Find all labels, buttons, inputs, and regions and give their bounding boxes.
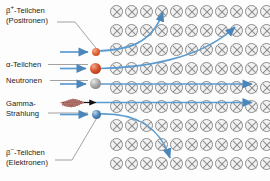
trajectory-electron xyxy=(99,114,170,158)
electron-marker xyxy=(92,110,101,119)
deflected-trajectories xyxy=(96,12,252,158)
radiation-deflection-diagram: β+-Teilchen (Positronen) α-Teilchen Neut… xyxy=(0,0,270,181)
label-positron-line2: (Positronen) xyxy=(6,16,48,26)
label-electron-line1: β−-Teilchen xyxy=(6,148,48,158)
label-positron-line1: β+-Teilchen xyxy=(6,6,48,16)
label-gamma-line2: Strahlung xyxy=(6,109,39,119)
label-positron-suffix: -Teilchen xyxy=(14,6,45,15)
label-alpha-line1: α-Teilchen xyxy=(6,60,41,70)
label-positron: β+-Teilchen (Positronen) xyxy=(6,6,48,26)
label-alpha: α-Teilchen xyxy=(6,60,41,70)
label-electron: β−-Teilchen (Elektronen) xyxy=(6,148,48,168)
alpha-particle-marker xyxy=(90,63,101,74)
leader-electron xyxy=(55,116,98,160)
label-neutron: Neutronen xyxy=(6,76,42,86)
label-gamma: Gamma- Strahlung xyxy=(6,99,39,119)
gamma-ray-wave xyxy=(60,99,96,108)
trajectory-positron xyxy=(96,12,163,51)
label-neutron-line1: Neutronen xyxy=(6,76,42,86)
label-gamma-line1: Gamma- xyxy=(6,99,39,109)
leader-positron xyxy=(57,22,96,48)
positron-marker xyxy=(92,48,100,56)
neutron-marker xyxy=(90,78,101,89)
leader-lines xyxy=(48,22,98,160)
label-electron-line2: (Elektronen) xyxy=(6,158,48,168)
label-electron-suffix: -Teilchen xyxy=(14,148,45,157)
